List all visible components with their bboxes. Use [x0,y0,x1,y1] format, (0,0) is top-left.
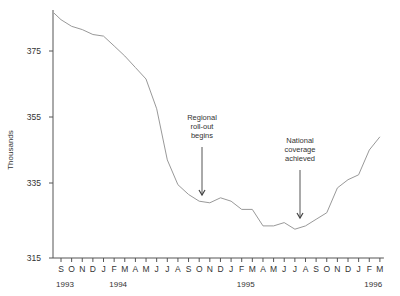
x-tick-label: O [68,264,75,274]
x-tick-label: M [249,264,256,274]
x-tick-label: J [155,264,159,274]
x-tick-label: O [323,264,330,274]
x-tick-label: F [112,264,117,274]
annotation-text: achieved [285,154,315,163]
annotation-text: coverage [285,145,316,154]
y-tick-label: 375 [27,46,41,56]
x-tick-label: M [121,264,128,274]
x-tick-label: J [357,264,361,274]
x-tick-label: D [90,264,96,274]
x-tick-label: M [270,264,277,274]
x-tick-label: N [207,264,213,274]
x-tick-label: A [260,264,266,274]
x-tick-label: O [196,264,203,274]
annotation-text: National [286,136,314,145]
annotation-0: Regionalroll-outbegins [187,113,217,195]
y-tick-label: 355 [27,112,41,122]
chart-svg: 315335355375 SONDJFMAMJJASONDJFMAMJJASON… [0,0,400,296]
x-tick-label: F [239,264,244,274]
line-chart: 315335355375 SONDJFMAMJJASONDJFMAMJJASON… [0,0,400,296]
x-tick-label: M [376,264,383,274]
x-tick-label: J [282,264,286,274]
x-tick-label: A [303,264,309,274]
annotation-1: Nationalcoverageachieved [285,136,316,218]
annotation-text: Regional [187,113,217,122]
year-label: 1994 [109,280,127,289]
x-tick-label: J [229,264,233,274]
series-line [54,13,380,229]
x-tick-label: J [165,264,169,274]
y-axis: 315335355375 [27,10,53,263]
x-tick-label: S [58,264,64,274]
x-tick-label: N [79,264,85,274]
y-tick-label: 315 [27,253,41,263]
year-label: 1993 [56,280,74,289]
year-label: 1995 [237,280,255,289]
y-tick-label: 335 [27,178,41,188]
x-tick-label: M [142,264,149,274]
x-tick-label: J [101,264,105,274]
annotation-text: roll-out [191,122,215,131]
year-label: 1996 [364,280,382,289]
x-tick-label: F [367,264,372,274]
x-tick-label: A [133,264,139,274]
x-tick-label: S [313,264,319,274]
annotation-text: begins [191,131,213,140]
x-tick-label: N [334,264,340,274]
x-tick-label: S [186,264,192,274]
x-tick-label: J [293,264,297,274]
y-axis-label: Thousands [6,130,15,170]
x-tick-label: A [175,264,181,274]
x-tick-label: D [345,264,351,274]
x-axis: SONDJFMAMJJASONDJFMAMJJASONDJFM199319941… [53,258,384,289]
x-tick-label: D [217,264,223,274]
